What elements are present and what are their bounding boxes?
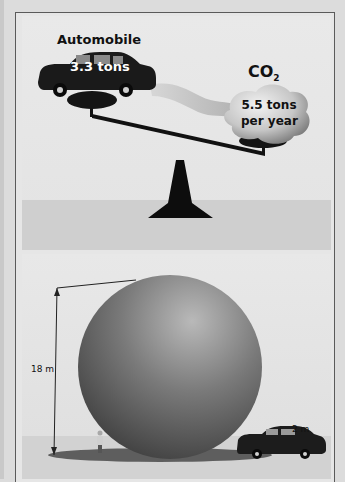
- sphere-height-label: 18 m: [31, 364, 54, 374]
- co2-label: CO2: [248, 62, 280, 83]
- cloud-line-2: per year: [241, 114, 297, 128]
- co2-subscript: 2: [273, 73, 279, 83]
- car-height-label: 2 m: [292, 424, 309, 434]
- cloud-line-1: 5.5 tons: [241, 98, 297, 112]
- automobile-title: Automobile: [57, 32, 141, 47]
- co2-main: CO: [248, 62, 273, 81]
- car-weight-label: 3.3 tons: [70, 59, 130, 74]
- sphere-icon: [78, 275, 262, 459]
